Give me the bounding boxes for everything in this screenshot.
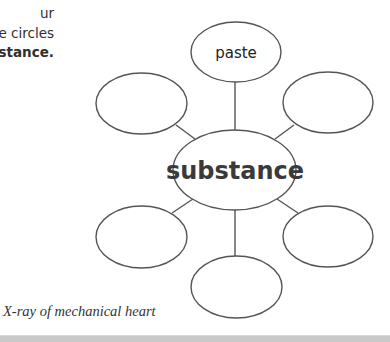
node-top-label: paste (215, 44, 257, 62)
page-bottom-edge (0, 335, 390, 342)
node-upper-left (96, 73, 187, 134)
node-lower-right (283, 206, 373, 267)
image-caption: X-ray of mechanical heart (3, 303, 156, 320)
node-upper-right (283, 72, 373, 133)
connector-lower-left (172, 199, 193, 213)
connector-lower-right (277, 199, 298, 213)
node-bottom (191, 256, 282, 318)
center-label: substance (166, 157, 304, 185)
connector-upper-right (275, 125, 294, 139)
node-lower-left (96, 206, 187, 268)
connector-upper-left (176, 125, 195, 139)
